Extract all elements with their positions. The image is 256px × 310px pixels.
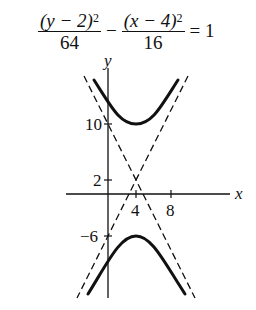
x-tick-label-8: 8 — [166, 201, 175, 220]
y-tick-label-neg6: −6 — [80, 227, 98, 246]
y-axis-label: y — [102, 51, 112, 70]
x-axis-label: x — [234, 184, 243, 203]
x-tick-label-4: 4 — [131, 201, 140, 220]
upper-branch — [94, 80, 178, 124]
hyperbola-plot: x y 4 8 10 2 −6 — [0, 0, 256, 310]
y-tick-label-10: 10 — [85, 115, 102, 134]
y-tick-label-2: 2 — [93, 171, 102, 190]
lower-branch — [88, 236, 185, 294]
